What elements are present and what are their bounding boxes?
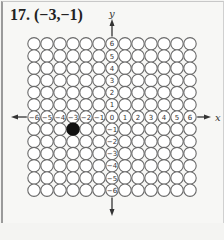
grid-point[interactable] <box>28 184 40 196</box>
grid-point[interactable] <box>145 74 157 86</box>
grid-point[interactable] <box>132 160 144 172</box>
grid-point[interactable] <box>54 172 66 184</box>
grid-point[interactable] <box>54 135 66 147</box>
grid-point[interactable] <box>41 184 53 196</box>
grid-point[interactable] <box>54 160 66 172</box>
grid-point[interactable] <box>119 99 131 111</box>
grid-point[interactable] <box>119 38 131 50</box>
grid-point[interactable] <box>132 99 144 111</box>
grid-point[interactable] <box>184 147 196 159</box>
grid-point[interactable] <box>119 160 131 172</box>
grid-point[interactable] <box>93 38 105 50</box>
grid-point[interactable] <box>80 50 92 62</box>
grid-point[interactable] <box>158 172 170 184</box>
grid-point[interactable] <box>132 74 144 86</box>
grid-point[interactable] <box>119 50 131 62</box>
grid-point[interactable] <box>80 99 92 111</box>
grid-point[interactable] <box>80 123 92 135</box>
grid-point[interactable] <box>132 50 144 62</box>
grid-point[interactable] <box>67 184 79 196</box>
grid-point[interactable] <box>93 172 105 184</box>
grid-point[interactable] <box>93 123 105 135</box>
grid-point[interactable] <box>158 38 170 50</box>
grid-point[interactable] <box>54 123 66 135</box>
grid-point[interactable] <box>119 135 131 147</box>
grid-point[interactable] <box>93 184 105 196</box>
grid-point[interactable] <box>171 147 183 159</box>
grid-point[interactable] <box>67 172 79 184</box>
grid-point[interactable] <box>171 135 183 147</box>
grid-point[interactable] <box>132 38 144 50</box>
grid-point[interactable] <box>184 50 196 62</box>
grid-point[interactable] <box>171 38 183 50</box>
grid-point[interactable] <box>145 135 157 147</box>
grid-point[interactable] <box>67 74 79 86</box>
grid-point[interactable] <box>41 74 53 86</box>
grid-point[interactable] <box>145 172 157 184</box>
grid-point[interactable] <box>184 184 196 196</box>
grid-point[interactable] <box>28 147 40 159</box>
grid-point[interactable] <box>145 123 157 135</box>
grid-point[interactable] <box>67 99 79 111</box>
grid-point[interactable] <box>158 86 170 98</box>
grid-point[interactable] <box>28 135 40 147</box>
grid-point[interactable] <box>132 172 144 184</box>
grid-point[interactable] <box>67 38 79 50</box>
grid-point[interactable] <box>28 123 40 135</box>
grid-point[interactable] <box>184 62 196 74</box>
grid-point[interactable] <box>119 172 131 184</box>
grid-point[interactable] <box>132 135 144 147</box>
grid-point[interactable] <box>119 147 131 159</box>
grid-point[interactable] <box>132 86 144 98</box>
grid-point[interactable] <box>28 160 40 172</box>
grid-point[interactable] <box>80 74 92 86</box>
grid-point[interactable] <box>158 99 170 111</box>
grid-point[interactable] <box>67 160 79 172</box>
grid-point[interactable] <box>119 62 131 74</box>
grid-point[interactable] <box>119 123 131 135</box>
grid-point[interactable] <box>67 147 79 159</box>
grid-point[interactable] <box>158 74 170 86</box>
grid-point[interactable] <box>132 184 144 196</box>
grid-point[interactable] <box>93 74 105 86</box>
grid-point[interactable] <box>158 147 170 159</box>
grid-point[interactable] <box>158 50 170 62</box>
grid-point[interactable] <box>80 135 92 147</box>
grid-point[interactable] <box>67 86 79 98</box>
grid-point[interactable] <box>145 147 157 159</box>
grid-point[interactable] <box>54 74 66 86</box>
grid-point[interactable] <box>28 50 40 62</box>
grid-point[interactable] <box>28 38 40 50</box>
grid-point[interactable] <box>119 184 131 196</box>
grid-point[interactable] <box>171 184 183 196</box>
grid-point[interactable] <box>145 184 157 196</box>
grid-point[interactable] <box>54 184 66 196</box>
grid-point[interactable] <box>28 172 40 184</box>
grid-point[interactable] <box>41 62 53 74</box>
grid-point[interactable] <box>28 86 40 98</box>
grid-point[interactable] <box>67 62 79 74</box>
grid-point[interactable] <box>93 99 105 111</box>
grid-point[interactable] <box>158 135 170 147</box>
grid-point[interactable] <box>184 38 196 50</box>
grid-point[interactable] <box>41 38 53 50</box>
grid-point[interactable] <box>132 147 144 159</box>
grid-point[interactable] <box>54 86 66 98</box>
grid-point[interactable] <box>41 172 53 184</box>
grid-point[interactable] <box>184 74 196 86</box>
grid-point[interactable] <box>184 99 196 111</box>
grid-point[interactable] <box>145 62 157 74</box>
grid-point[interactable] <box>80 62 92 74</box>
grid-point[interactable] <box>158 62 170 74</box>
grid-point[interactable] <box>67 50 79 62</box>
grid-point[interactable] <box>93 86 105 98</box>
grid-point[interactable] <box>93 135 105 147</box>
grid-point[interactable] <box>41 50 53 62</box>
grid-point[interactable] <box>41 86 53 98</box>
grid-point[interactable] <box>80 86 92 98</box>
grid-point[interactable] <box>184 172 196 184</box>
grid-point[interactable] <box>119 74 131 86</box>
grid-point[interactable] <box>28 62 40 74</box>
grid-point[interactable] <box>184 123 196 135</box>
grid-point[interactable] <box>67 135 79 147</box>
